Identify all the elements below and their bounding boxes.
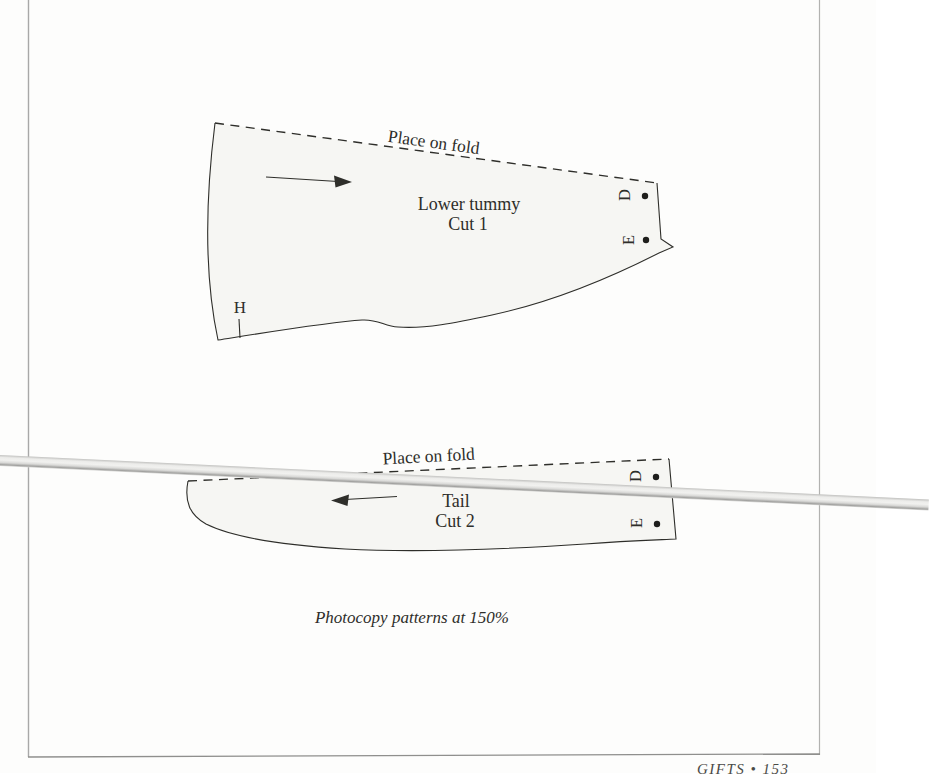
marker-e-dot: [654, 521, 660, 527]
lower-tummy-cut-count: Cut 1: [448, 214, 488, 234]
tail-marker-e: E: [627, 518, 646, 528]
tail-marker-d: D: [626, 470, 645, 482]
lower-tummy-marker-e: E: [619, 235, 638, 245]
lower-tummy-pattern-piece: Place on fold Lower tummy Cut 1 H D E: [208, 123, 674, 340]
marker-d-dot: [653, 474, 659, 480]
page-border: [28, 0, 820, 757]
tail-cut-count: Cut 2: [435, 511, 475, 531]
page-border-bottom: [28, 754, 820, 757]
lower-tummy-marker-h: H: [234, 298, 246, 317]
tail-fold-label: Place on fold: [382, 444, 476, 469]
photocopy-instruction-caption: Photocopy patterns at 150%: [287, 608, 537, 628]
lower-tummy-title: Lower tummy: [418, 194, 520, 214]
tail-pattern-piece: Place on fold Tail Cut 2 D E: [187, 444, 676, 551]
lower-tummy-fill: [208, 123, 674, 340]
page-footer-folio: GIFTS • 153: [697, 761, 790, 778]
marker-e-dot: [643, 237, 649, 243]
lower-tummy-marker-d: D: [615, 189, 634, 201]
tail-title: Tail: [442, 491, 470, 511]
marker-d-dot: [642, 193, 648, 199]
